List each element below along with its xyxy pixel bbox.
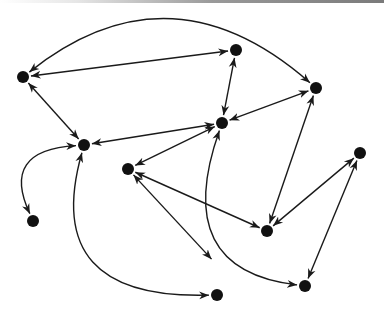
node-e [216, 117, 228, 129]
node-a [17, 71, 29, 83]
edge-layer [21, 19, 357, 296]
edge-a-c [29, 19, 310, 83]
node-d [78, 139, 90, 151]
edge-d-k [74, 153, 209, 296]
edge-e-f [135, 127, 215, 166]
node-g [354, 147, 366, 159]
node-h [27, 215, 39, 227]
edge-f-k [133, 175, 211, 259]
edge-d-e [92, 124, 214, 143]
edge-g-i [273, 158, 354, 226]
node-i [261, 225, 273, 237]
node-f [122, 163, 134, 175]
edge-b-e [224, 58, 235, 115]
edge-g-j [308, 160, 357, 278]
edge-a-b [31, 51, 228, 76]
edge-d-h [21, 146, 76, 214]
edge-c-i [270, 96, 314, 224]
edge-e-j [206, 131, 297, 285]
graph-canvas [0, 0, 384, 314]
node-b [230, 44, 242, 56]
edge-f-i [135, 172, 259, 227]
node-k [211, 289, 223, 301]
node-layer [17, 44, 366, 301]
node-c [310, 82, 322, 94]
edge-a-d [28, 83, 78, 139]
node-j [299, 280, 311, 292]
edge-e-c [229, 91, 308, 120]
